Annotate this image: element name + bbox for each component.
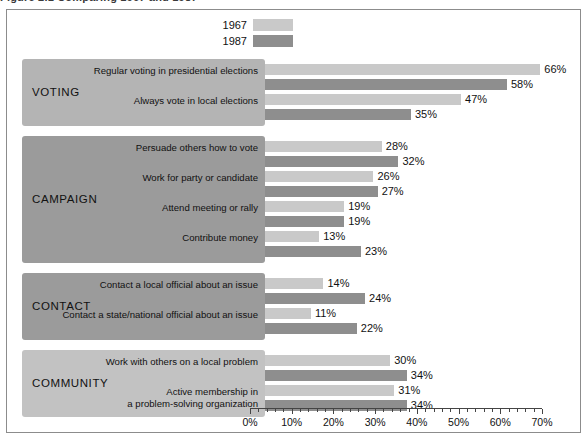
axis-tick-minor [325,409,326,412]
bar-value-label: 13% [323,231,345,242]
bar-value-label: 22% [361,323,383,334]
axis-tick-minor [283,409,284,412]
figure-caption-fragment: Figure 2.1 Comparing 1967 and 1987 [0,0,588,3]
axis-tick-major [375,409,376,414]
bar-value-label: 47% [465,94,487,105]
axis-tick-label: 10% [281,416,302,428]
axis-tick-major [333,409,334,414]
bar-1967 [265,308,311,319]
bar-value-label: 26% [377,171,399,182]
bar-1967 [265,94,461,105]
axis-tick-major [250,409,251,414]
bar-value-label: 31% [398,385,420,396]
item-label: Work for party or candidate [22,172,265,183]
bar-value-label: 23% [365,246,387,257]
axis-tick-minor [317,409,318,412]
axis-tick-minor [400,409,401,412]
bar-value-label: 35% [415,109,437,120]
item-label: Regular voting in presidential elections [22,65,265,76]
bar-1967 [265,171,373,182]
legend-entry-1967: 1967 [7,18,307,32]
bar-1987 [265,246,361,257]
bar-1987 [265,216,344,227]
item-label: Contribute money [22,232,265,243]
axis-tick-minor [425,409,426,412]
item-label: Contact a state/national official about … [22,309,265,320]
axis-tick-minor [492,409,493,412]
axis-tick-label: 30% [365,416,386,428]
item-label: Contact a local official about an issue [22,279,265,290]
item-label: Work with others on a local problem [22,356,265,367]
bar-value-label: 32% [402,156,424,167]
axis-tick-label: 20% [323,416,344,428]
axis-tick-minor [350,409,351,412]
axis-tick-minor [525,409,526,412]
legend-swatch-1967 [253,19,293,31]
axis-tick-minor [450,409,451,412]
bar-value-label: 19% [348,216,370,227]
bar-1987 [265,293,365,304]
axis-tick-minor [267,409,268,412]
bar-value-label: 11% [315,308,336,319]
legend-swatch-1987 [253,35,293,47]
axis-tick-minor [409,409,410,412]
axis-tick-major [417,409,418,414]
bar-value-label: 27% [382,186,404,197]
x-axis: 0%10%20%30%40%50%60%70% [250,408,550,432]
bar-1967 [265,64,540,75]
axis-tick-minor [358,409,359,412]
bar-value-label: 14% [327,278,349,289]
item-label: Active membership ina problem-solving or… [22,386,265,409]
axis-tick-minor [367,409,368,412]
bar-1967 [265,385,394,396]
axis-tick-major [292,409,293,414]
axis-tick-minor [442,409,443,412]
bar-1987 [265,323,357,334]
bar-1987 [265,156,398,167]
axis-tick-minor [509,409,510,412]
axis-tick-label: 0% [242,416,257,428]
item-label: Attend meeting or rally [22,202,265,213]
bar-1987 [265,186,378,197]
axis-tick-label: 50% [448,416,469,428]
axis-tick-minor [300,409,301,412]
bar-1967 [265,201,344,212]
figure-frame: 1967 1987 VOTINGRegular voting in presid… [6,9,581,433]
bar-value-label: 28% [386,141,408,152]
bar-value-label: 66% [544,64,566,75]
axis-tick-minor [383,409,384,412]
legend-entry-1987: 1987 [7,34,307,48]
bar-1967 [265,355,390,366]
axis-tick-minor [434,409,435,412]
axis-tick-label: 40% [406,416,427,428]
bar-1987 [265,370,407,381]
legend-label-1967: 1967 [7,19,253,31]
axis-tick-minor [275,409,276,412]
bar-value-label: 58% [511,79,533,90]
bar-value-label: 30% [394,355,416,366]
axis-tick-minor [534,409,535,412]
axis-tick-label: 70% [531,416,552,428]
axis-tick-minor [392,409,393,412]
axis-tick-minor [308,409,309,412]
bar-1987 [265,79,507,90]
bar-1987 [265,109,411,120]
axis-tick-major [459,409,460,414]
axis-tick-major [500,409,501,414]
bar-1967 [265,231,319,242]
bar-value-label: 19% [348,201,370,212]
bar-value-label: 34% [411,370,433,381]
bar-value-label: 24% [369,293,391,304]
axis-tick-minor [467,409,468,412]
axis-tick-minor [475,409,476,412]
item-label: Always vote in local elections [22,95,265,106]
item-label: Persuade others how to vote [22,142,265,153]
axis-tick-minor [342,409,343,412]
bar-1967 [265,278,323,289]
axis-tick-minor [484,409,485,412]
x-axis-line [250,408,542,409]
legend-label-1987: 1987 [7,35,253,47]
chart-legend: 1967 1987 [7,18,582,54]
bar-1967 [265,141,382,152]
axis-tick-major [542,409,543,414]
